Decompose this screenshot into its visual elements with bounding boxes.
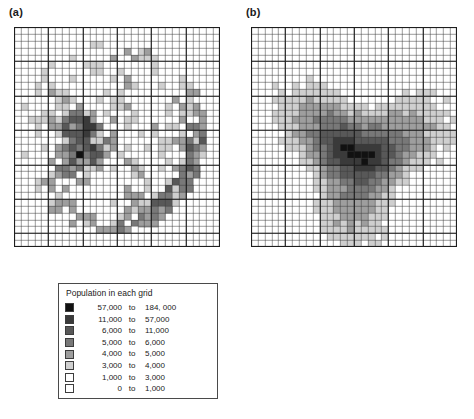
population-map-canvas[interactable] xyxy=(14,27,220,247)
legend-range-separator: to xyxy=(122,372,142,384)
legend-range-high: 4,000 xyxy=(142,360,195,372)
legend-range-high: 184, 000 xyxy=(142,302,195,314)
legend-range-low: 6,000 xyxy=(82,325,122,337)
legend-range-separator: to xyxy=(122,360,142,372)
panel-b-label: (b) xyxy=(246,6,261,18)
panel-b: (b) SO2 concentration, µg/m3 0.036to0.07… xyxy=(237,0,474,419)
legend-row: 57,000to184, 000 xyxy=(65,302,211,314)
legend-population: Population in each grid 57,000to184, 000… xyxy=(58,283,218,399)
legend-range-low: 57,000 xyxy=(82,302,122,314)
legend-row: 5,000to6,000 xyxy=(65,337,211,349)
legend-range-separator: to xyxy=(122,325,142,337)
legend-range-low: 0 xyxy=(82,383,122,395)
legend-row: 3,000to4,000 xyxy=(65,360,211,372)
so2-concentration-grid-map[interactable] xyxy=(251,27,457,247)
legend-swatch xyxy=(65,326,74,335)
legend-range-high: 11,000 xyxy=(142,325,195,337)
legend-swatch xyxy=(65,303,74,312)
legend-range-high: 1,000 xyxy=(142,383,195,395)
legend-range-high: 3,000 xyxy=(142,372,195,384)
legend-swatch xyxy=(65,315,74,324)
legend-range-low: 11,000 xyxy=(82,314,122,326)
legend-range-low: 1,000 xyxy=(82,372,122,384)
legend-swatch xyxy=(65,338,74,347)
legend-range-separator: to xyxy=(122,314,142,326)
legend-row: 0to1,000 xyxy=(65,383,211,395)
legend-range-high: 57,000 xyxy=(142,314,195,326)
population-density-grid-map[interactable] xyxy=(14,27,220,247)
legend-population-rows: 57,000to184, 00011,000to57,0006,000to11,… xyxy=(65,302,211,395)
legend-range-low: 5,000 xyxy=(82,337,122,349)
legend-range-separator: to xyxy=(122,383,142,395)
legend-range-low: 3,000 xyxy=(82,360,122,372)
legend-range-low: 4,000 xyxy=(82,348,122,360)
so2-map-canvas[interactable] xyxy=(251,27,457,247)
panel-a-label: (a) xyxy=(9,6,23,18)
panel-a: (a) Population in each grid 57,000to184,… xyxy=(0,0,237,419)
legend-swatch xyxy=(65,373,74,382)
legend-row: 4,000to5,000 xyxy=(65,348,211,360)
legend-range-separator: to xyxy=(122,337,142,349)
legend-row: 11,000to57,000 xyxy=(65,314,211,326)
legend-range-separator: to xyxy=(122,348,142,360)
legend-range-high: 5,000 xyxy=(142,348,195,360)
legend-swatch xyxy=(65,361,74,370)
legend-swatch xyxy=(65,384,74,393)
legend-swatch xyxy=(65,350,74,359)
legend-range-separator: to xyxy=(122,302,142,314)
legend-range-high: 6,000 xyxy=(142,337,195,349)
legend-row: 1,000to3,000 xyxy=(65,372,211,384)
legend-row: 6,000to11,000 xyxy=(65,325,211,337)
legend-population-title: Population in each grid xyxy=(66,288,211,299)
